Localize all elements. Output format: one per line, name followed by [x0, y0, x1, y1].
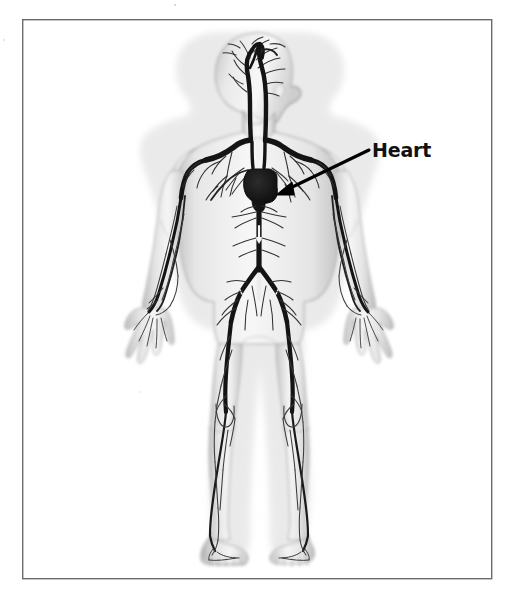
heart-organ [244, 169, 278, 203]
circulatory-system-figure: Heart [0, 0, 509, 594]
heart-label: Heart [372, 139, 431, 161]
speck-left-icon [3, 39, 5, 41]
figure-root: Heart [0, 0, 509, 594]
speck-top-icon [174, 4, 176, 6]
ascending-aorta [252, 142, 253, 168]
speck-mid-icon [139, 391, 141, 393]
superior-vena-cava [264, 142, 265, 168]
